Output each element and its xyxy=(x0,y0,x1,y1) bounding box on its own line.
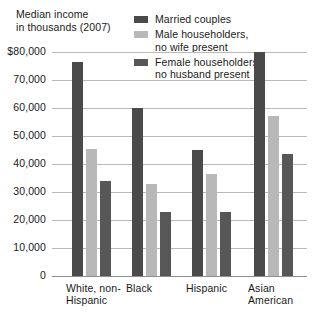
y-axis-tick-60000: 60,000 xyxy=(0,102,46,113)
bar xyxy=(146,184,157,276)
legend-swatch-icon-married-couples xyxy=(134,16,148,23)
bar xyxy=(268,116,279,276)
bar-group xyxy=(254,52,293,276)
y-axis-tick-40000: 40,000 xyxy=(0,158,46,169)
chart-title: Median income in thousands (2007) xyxy=(16,8,111,33)
bar xyxy=(132,108,143,276)
chart-title-line-1: Median income xyxy=(16,8,111,21)
chart-title-line-2: in thousands (2007) xyxy=(16,21,111,34)
median-income-bar-chart: Median income in thousands (2007) Marrie… xyxy=(0,0,321,318)
bar-group xyxy=(192,52,231,276)
x-axis-label: Asian American xyxy=(248,282,293,306)
legend-item-male-householders: Male householders, no wife present xyxy=(134,28,261,53)
y-axis-tick-0: 0 xyxy=(0,270,46,281)
bar xyxy=(86,149,97,276)
y-axis-tick-70000: 70,000 xyxy=(0,74,46,85)
y-axis-tick-80000: $80,000 xyxy=(0,46,46,57)
gridline-0 xyxy=(52,276,307,277)
y-axis-tick-20000: 20,000 xyxy=(0,214,46,225)
y-axis-tick-10000: 10,000 xyxy=(0,242,46,253)
x-axis-label: Black xyxy=(126,282,152,294)
x-axis-label: Hispanic xyxy=(186,282,227,294)
bar xyxy=(100,181,111,276)
bar xyxy=(220,212,231,276)
bar xyxy=(206,174,217,276)
y-axis-tick-30000: 30,000 xyxy=(0,186,46,197)
bar xyxy=(72,62,83,276)
bar xyxy=(254,52,265,276)
legend-label-married-couples: Married couples xyxy=(155,13,231,26)
bar-group xyxy=(132,52,171,276)
bar xyxy=(160,212,171,276)
bar xyxy=(282,154,293,276)
legend-label-male-householders: Male householders, no wife present xyxy=(155,28,248,53)
legend-swatch-icon-male-householders xyxy=(134,31,148,38)
y-axis-tick-50000: 50,000 xyxy=(0,130,46,141)
bar-group xyxy=(72,52,111,276)
legend-item-married-couples: Married couples xyxy=(134,13,261,26)
bar xyxy=(192,150,203,276)
x-axis-label: White, non- Hispanic xyxy=(66,282,121,306)
plot-area xyxy=(52,52,307,276)
